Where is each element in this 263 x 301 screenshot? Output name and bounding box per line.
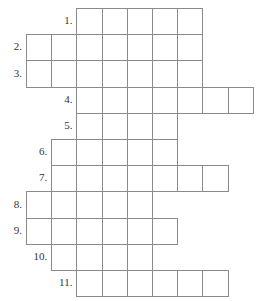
crossword-row-number: 3.: [0, 68, 22, 79]
crossword-cell[interactable]: [152, 113, 178, 140]
crossword-cell[interactable]: [202, 165, 228, 192]
crossword-cell[interactable]: [51, 218, 77, 245]
crossword-cell[interactable]: [76, 113, 102, 140]
crossword-cell[interactable]: [76, 34, 102, 61]
crossword-cell[interactable]: [76, 165, 102, 192]
crossword-cell[interactable]: [152, 139, 178, 166]
crossword-row: [51, 139, 178, 166]
crossword-cell[interactable]: [152, 270, 178, 297]
crossword-cell[interactable]: [51, 60, 77, 87]
crossword-row: [76, 87, 253, 114]
crossword-cell[interactable]: [102, 191, 128, 218]
crossword-row: [51, 244, 153, 271]
crossword-cell[interactable]: [26, 34, 52, 61]
crossword-cell[interactable]: [102, 34, 128, 61]
crossword-cell[interactable]: [76, 218, 102, 245]
crossword-cell[interactable]: [127, 60, 153, 87]
crossword-cell[interactable]: [127, 139, 153, 166]
crossword-cell[interactable]: [26, 191, 52, 218]
crossword-cell[interactable]: [51, 244, 77, 271]
crossword-cell[interactable]: [127, 34, 153, 61]
crossword-cell[interactable]: [127, 87, 153, 114]
crossword-cell[interactable]: [127, 191, 153, 218]
crossword-cell[interactable]: [127, 244, 153, 271]
crossword-cell[interactable]: [177, 165, 203, 192]
crossword-cell[interactable]: [177, 87, 203, 114]
crossword-cell[interactable]: [177, 8, 203, 35]
crossword-cell[interactable]: [152, 60, 178, 87]
crossword-cell[interactable]: [102, 87, 128, 114]
crossword-cell[interactable]: [76, 191, 102, 218]
crossword-row-number: 9.: [0, 225, 22, 236]
crossword-cell[interactable]: [26, 218, 52, 245]
crossword-cell[interactable]: [76, 244, 102, 271]
crossword-puzzle-grid: 1.2.3.4.5.6.7.8.9.10.11.: [0, 0, 263, 301]
crossword-cell[interactable]: [76, 270, 102, 297]
crossword-row: [26, 34, 203, 61]
crossword-cell[interactable]: [152, 218, 178, 245]
crossword-row: [26, 60, 203, 87]
crossword-cell[interactable]: [76, 87, 102, 114]
crossword-row: [76, 8, 203, 35]
crossword-cell[interactable]: [102, 60, 128, 87]
crossword-row: [26, 218, 178, 245]
crossword-row-number: 1.: [42, 15, 72, 26]
crossword-cell[interactable]: [102, 139, 128, 166]
crossword-row-number: 4.: [42, 94, 72, 105]
crossword-cell[interactable]: [76, 139, 102, 166]
crossword-cell[interactable]: [127, 270, 153, 297]
crossword-cell[interactable]: [102, 244, 128, 271]
crossword-row-number: 6.: [17, 146, 47, 157]
crossword-row: [76, 270, 228, 297]
crossword-cell[interactable]: [102, 270, 128, 297]
crossword-cell[interactable]: [152, 87, 178, 114]
crossword-row-number: 5.: [42, 120, 72, 131]
crossword-cell[interactable]: [127, 8, 153, 35]
crossword-cell[interactable]: [127, 113, 153, 140]
crossword-row-number: 8.: [0, 199, 22, 210]
crossword-row: [26, 191, 153, 218]
crossword-cell[interactable]: [177, 60, 203, 87]
crossword-cell[interactable]: [102, 165, 128, 192]
crossword-row-number: 2.: [0, 41, 22, 52]
crossword-cell[interactable]: [127, 218, 153, 245]
crossword-cell[interactable]: [76, 60, 102, 87]
crossword-cell[interactable]: [26, 60, 52, 87]
crossword-cell[interactable]: [51, 34, 77, 61]
crossword-row-number: 10.: [17, 251, 47, 262]
crossword-cell[interactable]: [127, 165, 153, 192]
crossword-row: [76, 113, 178, 140]
crossword-cell[interactable]: [102, 113, 128, 140]
crossword-cell[interactable]: [51, 165, 77, 192]
crossword-cell[interactable]: [177, 270, 203, 297]
crossword-cell[interactable]: [51, 191, 77, 218]
crossword-cell[interactable]: [228, 87, 254, 114]
crossword-row-number: 11.: [42, 277, 72, 288]
crossword-cell[interactable]: [177, 34, 203, 61]
crossword-cell[interactable]: [76, 8, 102, 35]
crossword-cell[interactable]: [51, 139, 77, 166]
crossword-cell[interactable]: [202, 270, 228, 297]
crossword-row: [51, 165, 228, 192]
crossword-row-number: 7.: [17, 172, 47, 183]
crossword-cell[interactable]: [202, 87, 228, 114]
crossword-cell[interactable]: [152, 8, 178, 35]
crossword-cell[interactable]: [152, 165, 178, 192]
crossword-cell[interactable]: [102, 8, 128, 35]
crossword-cell[interactable]: [152, 34, 178, 61]
crossword-cell[interactable]: [102, 218, 128, 245]
